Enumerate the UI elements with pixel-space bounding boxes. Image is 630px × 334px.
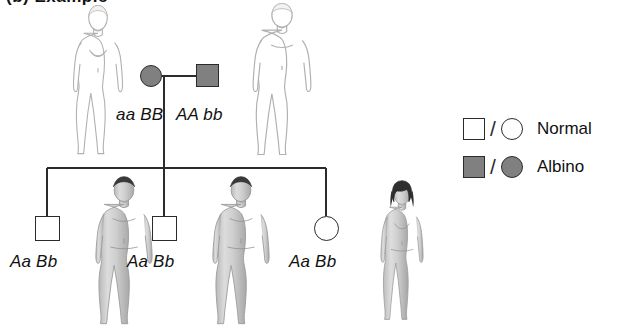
genotype-label-father: AA bb (176, 105, 223, 125)
genotype-label-child-3: Aa Bb (289, 252, 336, 272)
legend-square-albino-icon (463, 156, 485, 178)
pedigree-symbol-father[interactable] (196, 64, 219, 87)
pedigree-symbol-child-1[interactable] (35, 216, 60, 241)
pedigree-symbol-child-3[interactable] (314, 216, 339, 241)
pedigree-symbol-mother[interactable] (140, 65, 162, 87)
legend-square-normal-icon (463, 118, 485, 140)
legend-circle-albino-icon (501, 156, 523, 178)
legend-item-albino: / Albino (463, 152, 584, 182)
legend-label-albino: Albino (537, 157, 584, 177)
legend-separator-albino: / (485, 156, 501, 177)
genotype-label-child-2: Aa Bb (127, 252, 174, 272)
pedigree-figure: (b) Example (0, 0, 630, 334)
genotype-label-child-1: Aa Bb (10, 252, 57, 272)
legend-separator-normal: / (485, 118, 501, 139)
genotype-label-mother: aa BB (116, 105, 163, 125)
legend-label-normal: Normal (537, 119, 592, 139)
pedigree-symbol-child-2[interactable] (152, 216, 177, 241)
legend-circle-normal-icon (501, 118, 523, 140)
legend-item-normal: / Normal (463, 114, 592, 144)
